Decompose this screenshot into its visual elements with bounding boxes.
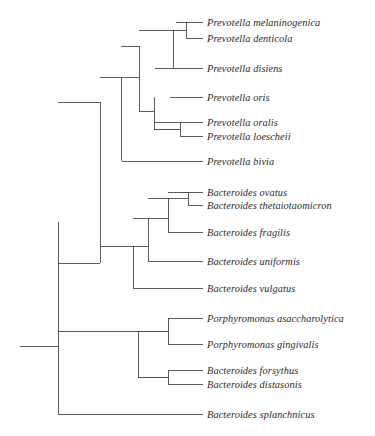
taxon-label: Bacteroides vulgatus: [207, 283, 295, 294]
taxon-label: Prevotella oralis: [207, 117, 278, 128]
taxon-label: Prevotella loescheii: [207, 131, 291, 142]
taxon-label: Prevotella denticola: [207, 33, 292, 44]
taxon-label: Prevotella disiens: [207, 63, 282, 74]
taxon-label: Bacteroides distasonis: [207, 379, 302, 390]
taxon-label: Bacteroides splanchnicus: [207, 409, 315, 420]
taxon-label: Bacteroides fragilis: [207, 227, 290, 238]
taxon-label-list: Prevotella melaninogenicaPrevotella dent…: [0, 0, 375, 436]
taxon-label: Bacteroides uniformis: [207, 256, 300, 267]
taxon-label: Porphyromonas asaccharolytica: [207, 313, 344, 324]
taxon-label: Prevotella melaninogenica: [207, 17, 320, 28]
taxon-label: Bacteroides ovatus: [207, 187, 287, 198]
phylogenetic-tree-figure: Prevotella melaninogenicaPrevotella dent…: [0, 0, 375, 436]
taxon-label: Porphyromonas gingivalis: [207, 339, 319, 350]
taxon-label: Prevotella bivia: [207, 156, 274, 167]
taxon-label: Bacteroides forsythus: [207, 365, 298, 376]
taxon-label: Bacteroides thetaiotaomicron: [207, 200, 332, 211]
taxon-label: Prevotella oris: [207, 92, 270, 103]
